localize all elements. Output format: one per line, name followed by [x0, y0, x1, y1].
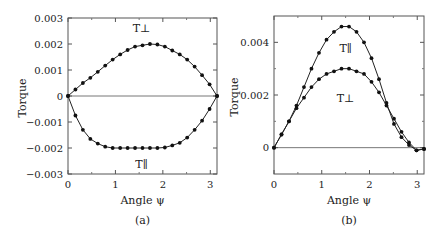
x-tick-label: 1 — [319, 179, 325, 190]
data-point — [407, 141, 411, 145]
data-point — [385, 104, 389, 108]
series-label: T⊥ — [337, 92, 355, 105]
data-point — [392, 122, 396, 126]
y-tick-label: 0 — [57, 91, 63, 102]
data-point — [163, 146, 167, 150]
data-point — [377, 77, 381, 81]
y-tick-label: −0.003 — [26, 169, 63, 180]
data-point — [81, 128, 85, 132]
data-point — [332, 30, 336, 34]
data-point — [193, 128, 197, 132]
data-point — [280, 133, 284, 137]
data-point — [96, 70, 100, 74]
data-point — [118, 146, 122, 150]
y-axis-label: Torque — [228, 78, 241, 117]
data-point — [163, 45, 167, 49]
data-point — [148, 42, 152, 46]
data-point — [347, 67, 351, 71]
data-point — [126, 48, 130, 52]
series-label: T∥ — [339, 42, 351, 55]
data-point — [272, 146, 276, 150]
data-point — [370, 80, 374, 84]
data-point — [126, 146, 130, 150]
data-point — [193, 65, 197, 69]
data-point — [377, 90, 381, 94]
data-point — [74, 114, 78, 118]
data-point — [103, 145, 107, 149]
data-point — [355, 69, 359, 73]
data-point — [200, 73, 204, 77]
panel-a: 01230.0030.0020.0010−0.001−0.002−0.003An… — [16, 13, 219, 228]
x-tick-label: 2 — [160, 179, 166, 190]
data-point — [422, 147, 426, 151]
series-label: T⊥ — [133, 22, 151, 35]
data-point — [156, 43, 160, 47]
data-point — [185, 58, 189, 62]
data-point — [88, 137, 92, 141]
data-point — [310, 67, 314, 71]
figure: 01230.0030.0020.0010−0.001−0.002−0.003An… — [0, 0, 446, 236]
x-tick-label: 3 — [414, 179, 420, 190]
data-point — [400, 135, 404, 139]
data-point — [111, 58, 115, 62]
y-tick-label: 0.003 — [34, 13, 63, 24]
data-point — [148, 146, 152, 150]
y-tick-label: 0.002 — [34, 39, 63, 50]
x-tick-label: 0 — [65, 179, 71, 190]
panel-label: (a) — [135, 214, 150, 227]
y-tick-label: −0.001 — [26, 117, 63, 128]
data-point — [215, 94, 219, 98]
data-point — [370, 56, 374, 60]
data-point — [415, 148, 419, 152]
y-tick-label: 0 — [263, 142, 269, 153]
y-tick-label: 0.001 — [34, 65, 63, 76]
data-point — [355, 30, 359, 34]
x-axis-label: Angle ψ — [119, 194, 164, 207]
data-point — [208, 107, 212, 111]
data-point — [302, 96, 306, 100]
data-point — [325, 38, 329, 42]
data-point — [156, 146, 160, 150]
data-point — [362, 72, 366, 76]
series-line — [68, 44, 217, 96]
data-point — [74, 88, 78, 92]
y-axis-label: Torque — [16, 79, 29, 118]
x-tick-label: 2 — [366, 179, 372, 190]
y-tick-label: −0.002 — [26, 143, 63, 154]
x-tick-label: 1 — [112, 179, 118, 190]
data-point — [96, 142, 100, 146]
data-point — [325, 72, 329, 76]
data-point — [133, 45, 137, 49]
data-point — [88, 76, 92, 80]
data-point — [317, 51, 321, 55]
data-point — [332, 69, 336, 73]
data-point — [170, 144, 174, 148]
data-point — [141, 43, 145, 47]
data-point — [302, 85, 306, 89]
panel-b: 01230.0040.0020Angle ψTorque(b)T∥T⊥ — [228, 16, 426, 227]
data-point — [170, 49, 174, 53]
data-point — [317, 77, 321, 81]
y-tick-label: 0.002 — [240, 90, 269, 101]
data-point — [141, 146, 145, 150]
data-point — [133, 146, 137, 150]
data-point — [310, 85, 314, 89]
data-point — [295, 106, 299, 110]
data-point — [400, 130, 404, 134]
data-point — [392, 117, 396, 121]
data-point — [287, 119, 291, 123]
x-tick-label: 0 — [271, 179, 277, 190]
data-point — [103, 64, 107, 68]
data-point — [208, 82, 212, 86]
data-point — [200, 119, 204, 123]
data-point — [362, 40, 366, 44]
x-axis-label: Angle ψ — [326, 194, 371, 207]
data-point — [347, 25, 351, 29]
data-point — [178, 141, 182, 145]
x-tick-label: 3 — [207, 179, 213, 190]
data-point — [340, 67, 344, 71]
panel-label: (b) — [341, 214, 357, 227]
y-tick-label: 0.004 — [240, 37, 269, 48]
data-point — [66, 94, 70, 98]
data-point — [340, 25, 344, 29]
